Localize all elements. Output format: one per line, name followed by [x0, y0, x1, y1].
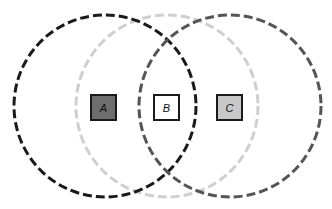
- square-a-label: A: [99, 102, 107, 114]
- square-a: A: [91, 95, 116, 120]
- square-b: B: [154, 95, 179, 120]
- square-b-label: B: [163, 102, 170, 114]
- square-c: C: [217, 95, 242, 120]
- square-c-label: C: [226, 102, 234, 114]
- venn-svg: A B C: [0, 0, 332, 209]
- venn-diagram: A B C: [0, 0, 332, 209]
